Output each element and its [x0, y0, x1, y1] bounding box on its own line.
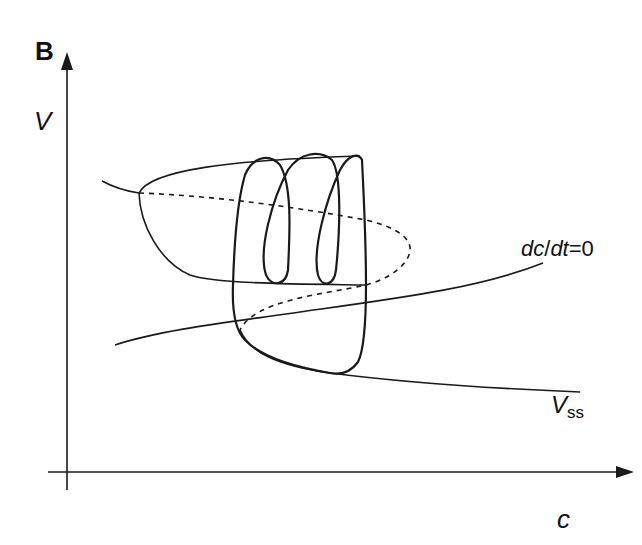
axes — [48, 52, 634, 490]
bursting-trajectory — [233, 154, 366, 374]
dc-dt-nullcline-label: dc/dt=0 — [521, 238, 594, 260]
x-axis-label: c — [557, 506, 570, 532]
v-nullcline-left-tail — [102, 181, 139, 193]
nullcline-label-dt: dt — [550, 236, 568, 261]
y-axis-arrowhead-icon — [61, 52, 73, 70]
v-nullcline-upper-branch — [139, 156, 360, 193]
dc-dt-nullcline — [115, 263, 543, 345]
phase-plane-diagram — [0, 0, 642, 545]
vss-label: Vss — [551, 393, 584, 421]
vss-label-sub: ss — [567, 403, 584, 422]
x-axis-arrowhead-icon — [616, 466, 634, 478]
y-axis-label: V — [34, 108, 51, 134]
panel-label: B — [35, 38, 54, 64]
v-nullcline-lower-left-branch — [139, 193, 366, 285]
vss-curve — [240, 330, 580, 392]
nullcline-label-eq: =0 — [569, 236, 594, 261]
nullcline-label-dc: dc — [521, 236, 544, 261]
vss-label-main: V — [551, 391, 567, 418]
unstable-branch-dashed — [139, 193, 410, 330]
